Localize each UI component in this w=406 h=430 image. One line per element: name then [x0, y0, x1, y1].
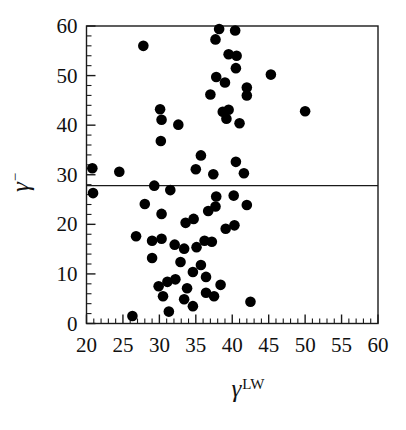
data-point: [156, 114, 167, 125]
data-point: [231, 157, 242, 168]
data-point: [196, 260, 207, 271]
data-point: [230, 25, 241, 36]
x-tick-label: 45: [258, 333, 279, 357]
y-axis-label-gamma: γ: [7, 182, 34, 192]
y-tick-label: 40: [57, 113, 78, 137]
data-point: [231, 63, 242, 74]
data-point: [169, 239, 180, 250]
data-point: [228, 190, 239, 201]
data-point: [220, 77, 231, 88]
y-tick-label: 30: [57, 163, 78, 187]
y-tick-label: 20: [57, 212, 78, 236]
x-tick-label: 60: [368, 333, 389, 357]
data-point: [88, 188, 99, 199]
data-point: [234, 118, 245, 129]
data-point: [229, 220, 240, 231]
x-tick-label: 40: [222, 333, 243, 357]
data-point: [300, 106, 311, 117]
data-point: [87, 163, 98, 174]
data-point: [211, 72, 222, 83]
data-point: [221, 113, 232, 124]
data-point: [165, 185, 176, 196]
x-axis-label-gamma: γ: [231, 375, 241, 402]
data-point: [147, 253, 158, 264]
x-tick-label: 35: [185, 333, 206, 357]
data-point: [210, 34, 221, 45]
data-point: [214, 24, 225, 35]
data-point: [173, 119, 184, 130]
data-point: [138, 41, 149, 52]
data-point: [156, 209, 167, 220]
data-point: [231, 50, 242, 61]
x-tick-label: 55: [331, 333, 352, 357]
data-point: [131, 231, 142, 242]
data-point: [188, 301, 199, 312]
data-point: [203, 206, 214, 217]
data-point: [239, 168, 250, 179]
scatter-plot: 2025303540455055600102030405060: [0, 0, 406, 430]
data-point: [209, 291, 220, 302]
x-axis-label: γLW: [198, 374, 298, 404]
data-point: [180, 218, 191, 229]
data-point: [164, 306, 175, 317]
data-point: [196, 150, 207, 161]
data-point: [188, 267, 199, 278]
y-axis-label: γ−: [8, 173, 33, 192]
data-point: [149, 180, 160, 191]
data-point: [114, 166, 125, 177]
data-point: [179, 243, 190, 254]
y-axis-label-superscript: −: [7, 173, 23, 181]
data-point: [140, 199, 151, 210]
data-point: [155, 104, 166, 115]
y-tick-label: 50: [57, 64, 78, 88]
scatter-figure: 2025303540455055600102030405060 γ− γLW: [0, 0, 406, 430]
x-tick-label: 30: [149, 333, 170, 357]
data-point: [179, 294, 190, 305]
y-tick-label: 60: [57, 14, 78, 38]
data-point: [147, 235, 158, 246]
data-point: [182, 283, 193, 294]
x-tick-label: 20: [76, 333, 97, 357]
data-point: [223, 104, 234, 115]
data-point: [208, 169, 219, 180]
data-point: [191, 164, 202, 175]
data-point: [170, 274, 181, 285]
data-point: [156, 136, 167, 147]
data-point: [158, 291, 169, 302]
data-point: [201, 272, 212, 283]
data-point: [242, 200, 253, 211]
x-axis-label-superscript: LW: [242, 376, 264, 392]
data-point: [207, 236, 218, 247]
y-tick-label: 10: [57, 262, 78, 286]
data-point: [215, 280, 226, 291]
data-point: [245, 296, 256, 307]
data-point: [242, 90, 253, 101]
data-point: [175, 257, 186, 268]
data-point: [205, 89, 216, 100]
x-tick-label: 25: [112, 333, 133, 357]
data-point: [211, 191, 222, 202]
data-point: [156, 233, 167, 244]
data-point: [127, 311, 138, 322]
x-tick-label: 50: [295, 333, 316, 357]
y-tick-label: 0: [67, 312, 78, 336]
data-point: [191, 242, 202, 253]
data-point: [266, 69, 277, 80]
